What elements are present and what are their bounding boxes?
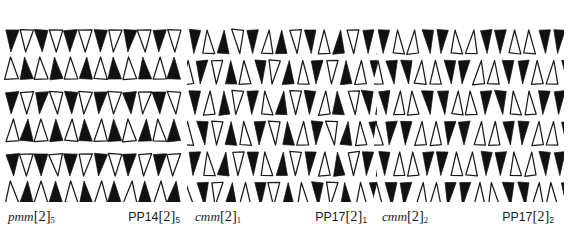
pattern-canvas-1 [187, 16, 377, 202]
pattern-panel-0: pmm[2]5 PP14[2]5 [0, 0, 190, 248]
pattern-canvas-0 [0, 16, 190, 202]
panel-2-right-label: PP17[2]2 [502, 206, 554, 231]
figure-root: pmm[2]5 PP14[2]5 cmm[2]1 PP17[2]1 cmm[2]… [0, 0, 571, 248]
pattern-svg-1 [187, 16, 377, 202]
panel-1-left-label: cmm[2]1 [195, 206, 241, 230]
pattern-canvas-2 [374, 16, 564, 202]
pattern-panel-2: cmm[2]2 PP17[2]2 [374, 0, 564, 248]
caption-row-0: pmm[2]5 PP14[2]5 [0, 206, 190, 234]
pattern-svg-2 [374, 16, 564, 202]
pattern-panel-1: cmm[2]1 PP17[2]1 [187, 0, 377, 248]
panel-0-left-label: pmm[2]5 [8, 206, 55, 230]
panel-0-right-label: PP14[2]5 [128, 206, 180, 231]
pattern-svg-0 [0, 16, 190, 202]
panel-1-right-label: PP17[2]1 [315, 206, 367, 231]
caption-row-1: cmm[2]1 PP17[2]1 [187, 206, 377, 234]
panel-2-left-label: cmm[2]2 [382, 206, 428, 230]
caption-row-2: cmm[2]2 PP17[2]2 [374, 206, 564, 234]
